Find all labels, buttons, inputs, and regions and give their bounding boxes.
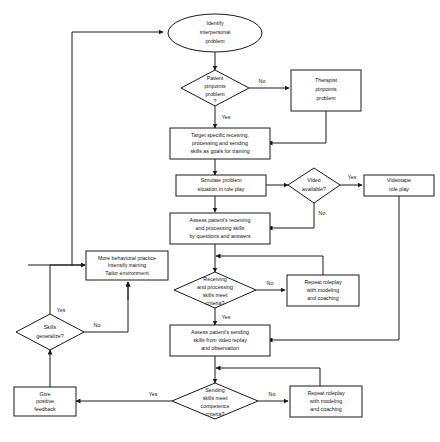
node-give-positive-feedback[interactable]: Give positive feedback bbox=[14, 387, 76, 416]
node-repeat1-line-2: with modeling bbox=[307, 287, 339, 293]
node-video-available[interactable]: Video available? bbox=[288, 168, 340, 203]
node-assess-sending-skills[interactable]: Assess patient's sending skills from vid… bbox=[170, 325, 270, 356]
node-feedback-line-2: positive bbox=[36, 398, 54, 404]
edge-therapist-to-target bbox=[268, 111, 326, 143]
node-identify-line-2: interpersonal bbox=[200, 29, 231, 35]
edge-label-patient-no: No bbox=[259, 78, 266, 84]
edge-label-generalize-yes: Yes bbox=[57, 307, 66, 313]
flowchart-page: Identify interpersonal problem Patient p… bbox=[0, 0, 440, 442]
node-patient-line-1: Patient bbox=[207, 75, 224, 81]
node-videotape-role-play[interactable]: Videotape role play bbox=[364, 175, 434, 196]
node-patient-line-4: ? bbox=[214, 98, 217, 104]
node-feedback-line-3: feedback bbox=[34, 406, 56, 412]
node-assess-receiving-line-3: by questions and answers bbox=[189, 233, 251, 239]
edge-repeat2-loopback bbox=[216, 368, 320, 386]
node-video-line-2: available? bbox=[302, 186, 326, 192]
node-target-line-3: skills as goals for training bbox=[190, 148, 249, 154]
node-more-practice-line-2: Intensify training bbox=[108, 262, 147, 268]
edge-left-return-line bbox=[72, 32, 163, 265]
flowchart-canvas: Identify interpersonal problem Patient p… bbox=[0, 0, 440, 442]
node-therapist-line-3: problem bbox=[316, 95, 336, 101]
edge-label-video-no: No bbox=[319, 210, 326, 216]
node-sending-criteria-line-3: competence bbox=[201, 403, 230, 409]
node-simulate-problem-situation[interactable]: Simulate problem situation in role play bbox=[176, 175, 266, 196]
edge-generalize-no-to-more-practice bbox=[84, 282, 128, 332]
node-more-practice-line-1: More behavioral practice bbox=[98, 255, 156, 261]
node-assess-receiving-skills[interactable]: Assess patient's receiving and processin… bbox=[170, 213, 270, 244]
node-target-line-1: Target specific receiving, bbox=[191, 132, 249, 138]
node-assess-sending-line-2: skills from video replay bbox=[193, 337, 247, 343]
node-identify-line-3: problem bbox=[205, 38, 225, 44]
node-video-line-1: Video bbox=[307, 177, 321, 183]
node-repeat-roleplay-lower[interactable]: Repeat roleplay with modeling and coachi… bbox=[290, 386, 362, 417]
node-assess-receiving-line-2: and processing skills bbox=[196, 225, 245, 231]
node-generalize-line-2: generalize? bbox=[36, 333, 63, 339]
node-receiving-criteria-line-2: and processing bbox=[197, 284, 233, 290]
node-simulate-line-1: Simulate problem bbox=[200, 177, 242, 183]
node-more-behavioral-practice[interactable]: More behavioral practice Intensify train… bbox=[86, 251, 168, 280]
node-generalize-line-1: Skills bbox=[44, 324, 57, 330]
edge-repeat1-loopback bbox=[216, 256, 323, 275]
node-therapist-line-1: Therapist bbox=[315, 77, 338, 83]
edge-generalize-yes-to-more-practice bbox=[50, 265, 85, 314]
node-videotape-line-1: Videotape bbox=[387, 177, 411, 183]
edge-label-receiving-no: No bbox=[267, 280, 274, 286]
node-sending-criteria-line-2: skills meet bbox=[203, 395, 228, 401]
node-repeat2-line-3: and coaching bbox=[310, 406, 342, 412]
node-patient-line-2: pinpoints bbox=[204, 83, 226, 89]
edge-label-generalize-no: No bbox=[94, 322, 101, 328]
node-patient-line-3: problem bbox=[205, 91, 225, 97]
node-receiving-processing-criteria[interactable]: Receiving and processing skills meet cri… bbox=[174, 272, 256, 308]
node-assess-sending-line-1: Assess patient's sending bbox=[191, 329, 249, 335]
node-identify-line-1: Identify bbox=[206, 20, 223, 26]
node-repeat2-line-2: with modeling bbox=[310, 398, 342, 404]
node-repeat2-line-1: Repeat roleplay bbox=[307, 390, 344, 396]
node-assess-receiving-line-1: Assess patient's receiving bbox=[190, 217, 251, 223]
node-repeat1-line-3: and coaching bbox=[307, 295, 339, 301]
node-sending-criteria-line-4: criteria? bbox=[206, 411, 225, 417]
node-receiving-criteria-line-3: skills meet bbox=[203, 292, 228, 298]
node-target-specific-skills[interactable]: Target specific receiving, processing an… bbox=[170, 128, 270, 159]
edge-label-receiving-yes: Yes bbox=[222, 314, 231, 320]
node-therapist-line-2: pinpoints bbox=[315, 86, 337, 92]
node-receiving-criteria-line-4: criteria? bbox=[206, 300, 225, 306]
node-skills-generalize[interactable]: Skills generalize? bbox=[16, 314, 84, 350]
node-repeat1-line-1: Repeat roleplay bbox=[304, 279, 341, 285]
edge-videotape-to-assess-sending bbox=[268, 196, 399, 340]
edge-label-patient-yes: Yes bbox=[222, 114, 231, 120]
node-repeat-roleplay-upper[interactable]: Repeat roleplay with modeling and coachi… bbox=[287, 275, 359, 306]
node-feedback-line-1: Give bbox=[40, 391, 51, 397]
node-patient-pinpoints-problem[interactable]: Patient pinpoints problem ? bbox=[181, 70, 249, 106]
edge-label-sending-yes: Yes bbox=[149, 391, 158, 397]
edge-label-video-yes: Yes bbox=[348, 174, 357, 180]
node-sending-criteria-line-1: Sending bbox=[205, 387, 224, 393]
node-sending-competence-criteria[interactable]: Sending skills meet competence criteria? bbox=[172, 383, 258, 419]
node-videotape-line-2: role play bbox=[389, 186, 409, 192]
node-identify-interpersonal-problem[interactable]: Identify interpersonal problem bbox=[168, 14, 262, 52]
node-target-line-2: processing and sending bbox=[192, 140, 248, 146]
node-therapist-pinpoints-problem[interactable]: Therapist pinpoints problem bbox=[291, 70, 361, 111]
edge-video-no-to-assess-receiving bbox=[268, 200, 314, 228]
edge-label-sending-no: No bbox=[269, 391, 276, 397]
node-more-practice-line-3: Tailor environment bbox=[105, 270, 149, 276]
node-simulate-line-2: situation in role play bbox=[198, 186, 245, 192]
node-assess-sending-line-3: and observation bbox=[201, 345, 239, 351]
node-receiving-criteria-line-1: Receiving bbox=[203, 276, 226, 282]
